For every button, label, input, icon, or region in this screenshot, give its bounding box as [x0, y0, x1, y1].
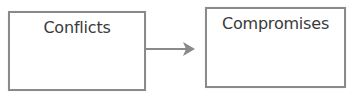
- compromises-label: Compromises: [207, 14, 344, 33]
- arrow-icon: [145, 40, 201, 58]
- conflicts-box: Conflicts: [8, 11, 146, 91]
- compromises-box: Compromises: [205, 7, 346, 88]
- conflicts-label: Conflicts: [10, 18, 144, 37]
